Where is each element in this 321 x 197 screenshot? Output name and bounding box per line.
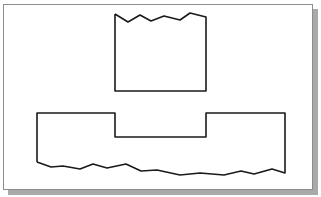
lower-part-with-bottom-break bbox=[37, 113, 285, 175]
drawing-canvas bbox=[0, 0, 321, 197]
upper-part-with-top-break bbox=[115, 13, 206, 91]
